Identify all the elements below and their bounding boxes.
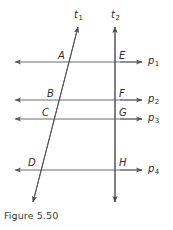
point-label-f: F	[119, 89, 125, 99]
line-label-p1: p1	[148, 56, 159, 66]
figure-container: A B C D E F G H t1 t2 p1 p2 p3 p4 Figure…	[0, 0, 173, 230]
point-label-g: G	[119, 108, 127, 118]
point-label-h: H	[119, 158, 127, 168]
line-label-p2: p2	[148, 94, 159, 104]
point-label-a: A	[58, 51, 65, 61]
line-label-p4-base: p	[148, 163, 154, 174]
point-label-c: C	[42, 108, 49, 118]
point-label-d: D	[28, 158, 36, 168]
point-label-b: B	[47, 89, 54, 99]
line-label-t2: t2	[111, 10, 119, 20]
line-label-p3: p3	[148, 113, 159, 123]
line-label-p3-base: p	[148, 112, 154, 123]
figure-caption: Figure 5.50	[4, 211, 58, 221]
line-label-t1: t1	[74, 10, 82, 20]
line-label-p4-sub: 4	[155, 168, 159, 176]
line-label-p3-sub: 3	[155, 117, 159, 125]
line-label-p1-sub: 1	[155, 60, 159, 68]
transversal-line-t1-down	[33, 27, 78, 202]
line-label-p2-base: p	[148, 93, 154, 104]
line-label-p2-sub: 2	[155, 98, 159, 106]
line-label-p1-base: p	[148, 55, 154, 66]
line-label-p4: p4	[148, 164, 159, 174]
line-label-t1-sub: 1	[78, 14, 82, 22]
line-label-t2-sub: 2	[115, 14, 119, 22]
point-label-e: E	[119, 51, 125, 61]
